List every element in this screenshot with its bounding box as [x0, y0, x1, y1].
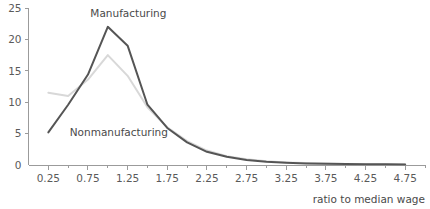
- y-tick-label: 5: [15, 127, 22, 139]
- y-tick-label: 0: [15, 159, 22, 171]
- x-axis-title: ratio to median wage: [313, 193, 425, 205]
- x-tick-label: 0.25: [37, 172, 60, 184]
- series-line-manufacturing: [48, 27, 405, 165]
- x-tick-label: 3.75: [314, 172, 337, 184]
- y-tick-label: 20: [8, 33, 21, 45]
- density-chart: 05101520250.250.751.251.752.252.753.253.…: [0, 0, 430, 209]
- x-tick-label: 4.75: [393, 172, 416, 184]
- y-tick-label: 25: [8, 2, 21, 14]
- x-tick-label: 2.25: [195, 172, 218, 184]
- x-tick-label: 1.75: [156, 172, 179, 184]
- series-line-nonmanufacturing: [48, 55, 405, 164]
- chart-canvas: 05101520250.250.751.251.752.252.753.253.…: [0, 0, 430, 209]
- y-tick-label: 15: [8, 65, 21, 77]
- x-tick-label: 0.75: [76, 172, 99, 184]
- x-tick-label: 2.75: [235, 172, 258, 184]
- series-label-manufacturing: Manufacturing: [90, 7, 166, 19]
- x-tick-label: 4.25: [354, 172, 377, 184]
- x-tick-label: 1.25: [116, 172, 139, 184]
- series-label-nonmanufacturing: Nonmanufacturing: [70, 126, 168, 138]
- x-tick-label: 3.25: [275, 172, 298, 184]
- y-tick-label: 10: [8, 96, 21, 108]
